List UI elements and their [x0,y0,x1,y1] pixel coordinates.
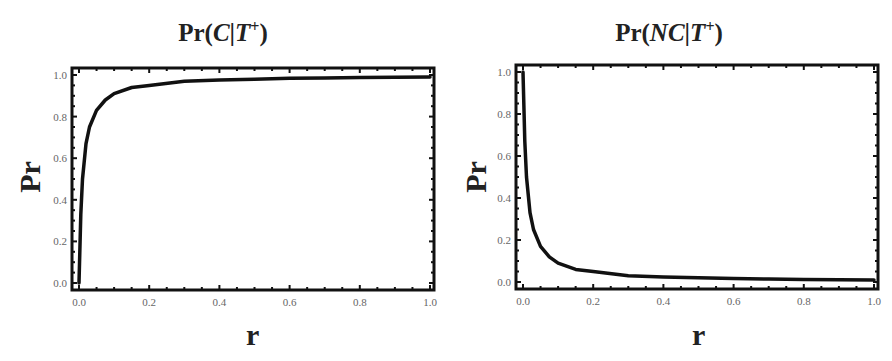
x-tick-label: 0.2 [142,296,156,308]
y-tick-label: 0.8 [53,111,67,123]
y-tick-label: 0.8 [497,108,511,120]
y-tick-label: 0.2 [497,234,511,246]
x-tick-label: 0.6 [283,296,297,308]
data-series-line [523,72,874,280]
y-tick-label: 0.6 [53,152,67,164]
y-tick-label: 0.4 [497,192,511,204]
y-tick-label: 0.4 [53,194,67,206]
x-tick-label: 1.0 [423,296,437,308]
plot-area-left: 0.00.20.40.60.81.00.00.20.40.60.81.0 [0,0,446,361]
y-tick-label: 1.0 [497,66,511,78]
plot-frame [72,68,434,290]
x-tick-label: 0.2 [586,295,600,307]
x-tick-label: 0.4 [213,296,227,308]
x-tick-label: 0.4 [657,295,671,307]
y-tick-label: 0.0 [53,277,67,289]
x-tick-label: 0.0 [516,295,530,307]
y-tick-label: 0.6 [497,150,511,162]
x-tick-label: 0.0 [72,296,86,308]
x-tick-label: 0.8 [797,295,811,307]
x-tick-label: 1.0 [867,295,881,307]
y-tick-label: 1.0 [53,69,67,81]
plot-area-right: 0.00.20.40.60.81.00.00.20.40.60.81.0 [446,0,892,361]
x-tick-label: 0.6 [727,295,741,307]
chart-panel-left: Pr(C|T+) Pr r 0.00.20.40.60.81.00.00.20.… [0,0,446,361]
y-tick-label: 0.0 [497,276,511,288]
x-tick-label: 0.8 [353,296,367,308]
plot-frame [516,65,878,289]
y-tick-label: 0.2 [53,235,67,247]
chart-panel-right: Pr(NC|T+) Pr r 0.00.20.40.60.81.00.00.20… [446,0,892,361]
data-series-line [79,77,430,283]
